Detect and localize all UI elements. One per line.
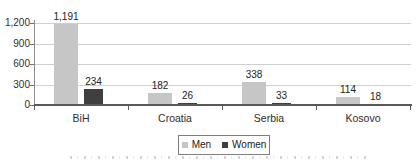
bar-women-bih bbox=[84, 89, 103, 105]
y-tick-label: 900 bbox=[0, 39, 30, 49]
cutoff-caption-remnant bbox=[70, 156, 366, 159]
value-label-women-bih: 234 bbox=[85, 77, 102, 87]
value-label-men-croatia: 182 bbox=[152, 81, 169, 91]
legend-women-label: Women bbox=[232, 140, 266, 150]
value-label-women-croatia: 26 bbox=[182, 91, 193, 101]
x-category-label-kosovo: Kosovo bbox=[345, 112, 380, 124]
x-tick-mark bbox=[222, 106, 223, 110]
x-category-label-serbia: Serbia bbox=[254, 112, 284, 124]
y-tick-label: 1,200 bbox=[0, 18, 30, 28]
bar-group-kosovo: 18 bbox=[366, 92, 385, 106]
x-category-label-croatia: Croatia bbox=[158, 112, 192, 124]
bar-group-bih: 1,191 bbox=[54, 12, 78, 105]
bar-group-serbia: 33 bbox=[272, 91, 291, 105]
value-label-men-bih: 1,191 bbox=[53, 12, 78, 22]
bar-men-bih bbox=[54, 24, 78, 105]
x-tick-mark bbox=[316, 106, 317, 110]
value-label-men-serbia: 338 bbox=[246, 70, 263, 80]
legend-men-label: Men bbox=[192, 140, 211, 150]
bar-group-croatia: 26 bbox=[178, 91, 197, 105]
y-tick-label: 300 bbox=[0, 80, 30, 90]
value-label-women-serbia: 33 bbox=[276, 91, 287, 101]
legend-item-women: Women bbox=[222, 140, 266, 150]
value-label-women-kosovo: 18 bbox=[370, 92, 381, 102]
bar-men-serbia bbox=[242, 82, 266, 105]
x-axis-line bbox=[34, 104, 412, 106]
bar-group-bih: 234 bbox=[84, 77, 103, 105]
x-category-label-bih: BiH bbox=[73, 112, 90, 124]
x-tick-mark bbox=[410, 106, 411, 110]
legend: Men Women bbox=[178, 135, 270, 155]
bar-group-serbia: 338 bbox=[242, 70, 266, 105]
legend-men-swatch-icon bbox=[182, 142, 188, 148]
x-tick-mark bbox=[34, 106, 35, 110]
bar-group-kosovo: 114 bbox=[336, 85, 360, 105]
bar-group-croatia: 182 bbox=[148, 81, 172, 105]
x-tick-mark bbox=[128, 106, 129, 110]
plot-area: 1,191234182263383311418 bbox=[34, 0, 411, 105]
bar-chart: 1,2009006003000 1,191234182263383311418 … bbox=[0, 0, 418, 160]
legend-item-men: Men bbox=[182, 140, 211, 150]
value-label-men-kosovo: 114 bbox=[340, 85, 356, 95]
legend-women-swatch-icon bbox=[222, 142, 228, 148]
y-tick-label: 0 bbox=[0, 100, 30, 110]
y-tick-label: 600 bbox=[0, 59, 30, 69]
